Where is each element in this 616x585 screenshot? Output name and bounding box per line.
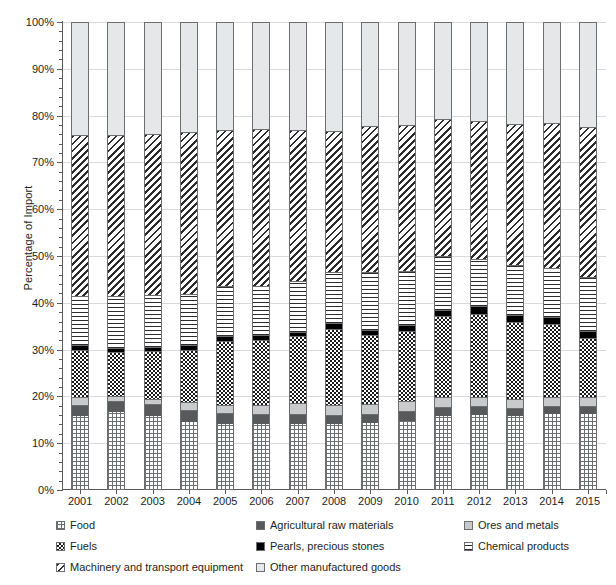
segment-ores-and-metals-2013[interactable]: [507, 399, 523, 408]
segment-pearls-precious-stones-2009[interactable]: [362, 330, 378, 335]
segment-other-manufactured-goods-2013[interactable]: [507, 22, 523, 124]
bar-2009[interactable]: [361, 22, 379, 490]
segment-fuels-2005[interactable]: [217, 341, 233, 406]
segment-ores-and-metals-2001[interactable]: [72, 397, 88, 405]
segment-chemical-products-2011[interactable]: [435, 256, 451, 309]
bar-2015[interactable]: [579, 22, 597, 490]
bar-2002[interactable]: [107, 22, 125, 490]
bar-2003[interactable]: [144, 22, 162, 490]
segment-agricultural-raw-materials-2011[interactable]: [435, 407, 451, 416]
segment-ores-and-metals-2012[interactable]: [471, 397, 487, 406]
segment-food-2015[interactable]: [580, 414, 596, 490]
segment-fuels-2012[interactable]: [471, 314, 487, 397]
bar-2006[interactable]: [252, 22, 270, 490]
segment-pearls-precious-stones-2015[interactable]: [580, 331, 596, 338]
segment-food-2010[interactable]: [399, 421, 415, 490]
segment-pearls-precious-stones-2007[interactable]: [290, 332, 306, 337]
legend-item-pearls-precious-stones[interactable]: Pearls, precious stones: [256, 541, 384, 552]
segment-chemical-products-2004[interactable]: [181, 294, 197, 345]
segment-other-manufactured-goods-2010[interactable]: [399, 22, 415, 125]
segment-machinery-and-transport-equipment-2010[interactable]: [399, 125, 415, 270]
segment-ores-and-metals-2015[interactable]: [580, 397, 596, 406]
segment-agricultural-raw-materials-2010[interactable]: [399, 411, 415, 420]
segment-other-manufactured-goods-2012[interactable]: [471, 22, 487, 121]
segment-fuels-2013[interactable]: [507, 322, 523, 399]
segment-chemical-products-2006[interactable]: [253, 286, 269, 335]
segment-other-manufactured-goods-2009[interactable]: [362, 22, 378, 126]
segment-food-2002[interactable]: [108, 412, 124, 490]
segment-machinery-and-transport-equipment-2015[interactable]: [580, 127, 596, 277]
segment-other-manufactured-goods-2011[interactable]: [435, 22, 451, 119]
segment-chemical-products-2010[interactable]: [399, 271, 415, 326]
segment-other-manufactured-goods-2006[interactable]: [253, 22, 269, 129]
segment-fuels-2003[interactable]: [145, 351, 161, 399]
segment-ores-and-metals-2007[interactable]: [290, 403, 306, 413]
segment-ores-and-metals-2008[interactable]: [326, 405, 342, 415]
segment-pearls-precious-stones-2014[interactable]: [544, 317, 560, 324]
bar-2011[interactable]: [434, 22, 452, 490]
segment-other-manufactured-goods-2007[interactable]: [290, 22, 306, 130]
segment-chemical-products-2015[interactable]: [580, 277, 596, 331]
bar-2005[interactable]: [216, 22, 234, 490]
segment-machinery-and-transport-equipment-2002[interactable]: [108, 135, 124, 296]
segment-chemical-products-2009[interactable]: [362, 272, 378, 330]
segment-food-2013[interactable]: [507, 416, 523, 490]
segment-machinery-and-transport-equipment-2009[interactable]: [362, 126, 378, 272]
segment-food-2005[interactable]: [217, 424, 233, 490]
segment-fuels-2009[interactable]: [362, 335, 378, 404]
segment-food-2008[interactable]: [326, 424, 342, 490]
segment-agricultural-raw-materials-2003[interactable]: [145, 404, 161, 416]
segment-other-manufactured-goods-2008[interactable]: [326, 22, 342, 131]
segment-agricultural-raw-materials-2006[interactable]: [253, 414, 269, 424]
segment-fuels-2001[interactable]: [72, 350, 88, 397]
segment-pearls-precious-stones-2011[interactable]: [435, 310, 451, 316]
segment-other-manufactured-goods-2004[interactable]: [181, 22, 197, 132]
legend-item-fuels[interactable]: Fuels: [56, 541, 97, 552]
bar-2008[interactable]: [325, 22, 343, 490]
segment-agricultural-raw-materials-2015[interactable]: [580, 406, 596, 413]
segment-food-2001[interactable]: [72, 416, 88, 490]
legend-item-other-manufactured-goods[interactable]: Other manufactured goods: [256, 562, 401, 573]
segment-ores-and-metals-2005[interactable]: [217, 405, 233, 412]
segment-pearls-precious-stones-2012[interactable]: [471, 306, 487, 313]
segment-food-2009[interactable]: [362, 423, 378, 490]
segment-pearls-precious-stones-2004[interactable]: [181, 345, 197, 350]
segment-other-manufactured-goods-2015[interactable]: [580, 22, 596, 127]
segment-other-manufactured-goods-2005[interactable]: [217, 22, 233, 130]
segment-ores-and-metals-2014[interactable]: [544, 397, 560, 406]
segment-agricultural-raw-materials-2007[interactable]: [290, 414, 306, 424]
segment-pearls-precious-stones-2002[interactable]: [108, 348, 124, 352]
legend-item-ores-and-metals[interactable]: Ores and metals: [464, 520, 559, 531]
segment-other-manufactured-goods-2003[interactable]: [145, 22, 161, 134]
bar-2007[interactable]: [289, 22, 307, 490]
segment-machinery-and-transport-equipment-2004[interactable]: [181, 132, 197, 293]
segment-agricultural-raw-materials-2013[interactable]: [507, 408, 523, 416]
segment-chemical-products-2013[interactable]: [507, 265, 523, 315]
segment-ores-and-metals-2006[interactable]: [253, 405, 269, 414]
segment-machinery-and-transport-equipment-2007[interactable]: [290, 130, 306, 281]
segment-machinery-and-transport-equipment-2012[interactable]: [471, 121, 487, 259]
segment-machinery-and-transport-equipment-2014[interactable]: [544, 123, 560, 268]
segment-ores-and-metals-2003[interactable]: [145, 399, 161, 404]
segment-fuels-2011[interactable]: [435, 316, 451, 397]
segment-agricultural-raw-materials-2008[interactable]: [326, 415, 342, 424]
segment-fuels-2014[interactable]: [544, 324, 560, 397]
segment-food-2003[interactable]: [145, 416, 161, 490]
bar-2014[interactable]: [543, 22, 561, 490]
segment-other-manufactured-goods-2014[interactable]: [544, 22, 560, 123]
segment-fuels-2010[interactable]: [399, 331, 415, 401]
legend-item-food[interactable]: Food: [56, 520, 95, 531]
segment-agricultural-raw-materials-2001[interactable]: [72, 405, 88, 416]
segment-food-2011[interactable]: [435, 416, 451, 490]
segment-fuels-2004[interactable]: [181, 350, 197, 402]
segment-fuels-2007[interactable]: [290, 336, 306, 403]
segment-chemical-products-2001[interactable]: [72, 296, 88, 346]
segment-other-manufactured-goods-2002[interactable]: [108, 22, 124, 135]
segment-ores-and-metals-2002[interactable]: [108, 396, 124, 401]
segment-machinery-and-transport-equipment-2013[interactable]: [507, 124, 523, 265]
segment-machinery-and-transport-equipment-2011[interactable]: [435, 119, 451, 256]
segment-fuels-2015[interactable]: [580, 338, 596, 397]
segment-chemical-products-2007[interactable]: [290, 281, 306, 332]
legend-item-machinery-and-transport-equipment[interactable]: Machinery and transport equipment: [56, 562, 243, 573]
bar-2010[interactable]: [398, 22, 416, 490]
